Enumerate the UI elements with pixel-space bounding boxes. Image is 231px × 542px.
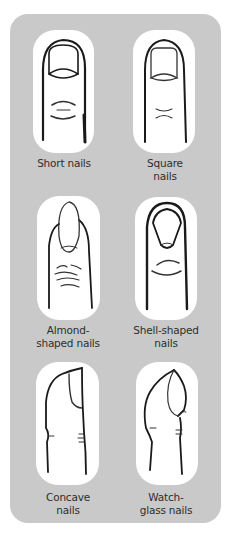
square-nails-label-line2: nails [124, 170, 206, 183]
short-nail-finger-icon [33, 30, 94, 153]
watch-glass-nails-label-line2: glass nails [124, 504, 208, 517]
short-nails-label-line1: Short nails [23, 157, 105, 170]
concave-nails-label: Concave nails [26, 491, 110, 517]
watch-glass-nails-card [136, 362, 198, 485]
almond-shaped-nails-card [37, 196, 100, 320]
concave-nails-label-line1: Concave [26, 491, 110, 504]
short-nails-card [33, 30, 94, 153]
concave-nail-finger-icon [36, 362, 99, 485]
watch-glass-nails-label: Watch- glass nails [124, 491, 208, 517]
shell-shaped-nails-card [135, 197, 197, 320]
shell-shaped-nails-label-line2: nails [124, 337, 208, 350]
almond-nail-finger-icon [37, 196, 100, 320]
watch-glass-nail-finger-icon [136, 362, 198, 485]
shell-nail-finger-icon [135, 197, 197, 320]
square-nails-card [133, 30, 195, 153]
short-nails-label: Short nails [23, 157, 105, 170]
watch-glass-nails-label-line1: Watch- [124, 491, 208, 504]
almond-shaped-nails-label-line2: shaped nails [26, 337, 110, 350]
square-nails-label: Square nails [124, 157, 206, 183]
shell-shaped-nails-label: Shell-shaped nails [124, 324, 208, 350]
square-nail-finger-icon [133, 30, 195, 153]
square-nails-label-line1: Square [124, 157, 206, 170]
almond-shaped-nails-label-line1: Almond- [26, 324, 110, 337]
concave-nails-label-line2: nails [26, 504, 110, 517]
shell-shaped-nails-label-line1: Shell-shaped [124, 324, 208, 337]
concave-nails-card [36, 362, 99, 485]
almond-shaped-nails-label: Almond- shaped nails [26, 324, 110, 350]
